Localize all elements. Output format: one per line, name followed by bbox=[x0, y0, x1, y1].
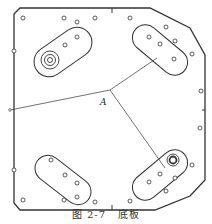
hole-icon bbox=[158, 42, 162, 46]
hole-icon bbox=[173, 39, 177, 43]
hole-icon bbox=[21, 16, 25, 20]
hole-icon bbox=[12, 168, 16, 172]
boss-top-left-ring-0 bbox=[41, 51, 59, 69]
figure-caption: 图 2-7 底板 bbox=[0, 206, 212, 221]
hole-icon bbox=[172, 57, 176, 61]
hole-icon bbox=[93, 16, 97, 20]
hole-icon bbox=[158, 172, 162, 176]
hole-icon bbox=[21, 198, 25, 202]
hole-icon bbox=[62, 16, 66, 20]
hole-icon bbox=[198, 126, 202, 130]
hole-icon bbox=[164, 25, 168, 29]
hole-icon bbox=[75, 20, 79, 24]
radial-lines bbox=[9, 58, 165, 168]
hole-icon bbox=[173, 176, 177, 180]
hole-icon bbox=[75, 35, 79, 39]
hole-icon bbox=[75, 181, 79, 185]
hole-icon bbox=[93, 200, 97, 204]
hole-icon bbox=[63, 43, 67, 47]
figure-number: 图 2-7 bbox=[72, 209, 106, 220]
hole-icon bbox=[147, 35, 151, 39]
radial-line-0 bbox=[10, 90, 110, 110]
hole-icon bbox=[199, 89, 203, 93]
hole-icon bbox=[12, 49, 16, 53]
hole-icon bbox=[128, 199, 132, 203]
radial-line-1 bbox=[110, 58, 157, 90]
hole-icon bbox=[49, 158, 53, 162]
radial-end-marker bbox=[9, 109, 12, 112]
hole-icon bbox=[190, 163, 194, 167]
bosses bbox=[41, 51, 179, 166]
hole-icon bbox=[63, 173, 67, 177]
slot-top-left bbox=[28, 21, 98, 82]
figure-title: 底板 bbox=[118, 209, 140, 220]
base-plate-drawing bbox=[0, 0, 212, 224]
hole-icon bbox=[164, 189, 168, 193]
hole-icon bbox=[190, 52, 194, 56]
hole-icon bbox=[62, 198, 66, 202]
hole-icon bbox=[147, 180, 151, 184]
hole-icon bbox=[128, 16, 132, 20]
point-a-label: A bbox=[100, 97, 107, 107]
radial-line-2 bbox=[110, 90, 165, 168]
hole-icon bbox=[75, 195, 79, 199]
slots bbox=[28, 19, 193, 209]
mounting-holes bbox=[12, 16, 203, 204]
